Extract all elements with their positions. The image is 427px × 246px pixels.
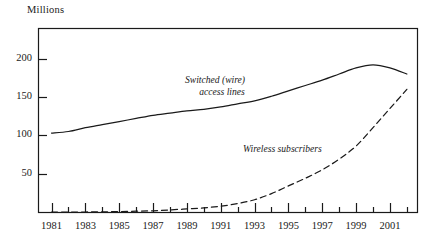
series-label-switched-access-lines: Switched (wire) access lines bbox=[160, 74, 270, 97]
x-axis-label-1999: 1999 bbox=[339, 220, 373, 231]
y-axis-label-100: 100 bbox=[6, 128, 32, 139]
x-axis-label-1995: 1995 bbox=[271, 220, 305, 231]
series-label-switched-line1: Switched (wire) bbox=[185, 74, 245, 85]
x-axis-label-1993: 1993 bbox=[238, 220, 272, 231]
x-axis-label-1987: 1987 bbox=[136, 220, 170, 231]
line-chart: Millions 50100150200 1981198319851987198… bbox=[0, 0, 427, 246]
x-axis-label-1989: 1989 bbox=[170, 220, 204, 231]
y-axis-label-200: 200 bbox=[6, 52, 32, 63]
x-axis-label-1981: 1981 bbox=[35, 220, 69, 231]
x-axis-label-1985: 1985 bbox=[102, 220, 136, 231]
x-axis-label-1983: 1983 bbox=[68, 220, 102, 231]
series-label-wireless-subscribers: Wireless subscribers bbox=[243, 143, 322, 155]
y-axis-label-150: 150 bbox=[6, 90, 32, 101]
x-axis-label-2001: 2001 bbox=[373, 220, 407, 231]
x-axis-label-1997: 1997 bbox=[305, 220, 339, 231]
plot-frame bbox=[39, 29, 418, 213]
y-axis-label-50: 50 bbox=[6, 167, 32, 178]
series-label-switched-line2: access lines bbox=[160, 86, 270, 98]
x-axis-label-1991: 1991 bbox=[204, 220, 238, 231]
plot-area bbox=[0, 0, 427, 246]
